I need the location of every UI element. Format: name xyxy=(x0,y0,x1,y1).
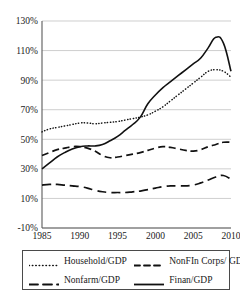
x-tick-label: 1985 xyxy=(33,231,52,241)
legend-entry[interactable]: NonFIn Corps/ GDP xyxy=(134,251,229,270)
y-tick-label: 30% xyxy=(21,164,39,174)
legend-swatch-dashed-icon xyxy=(134,256,164,265)
legend-entry[interactable]: Nonfarm/GDP xyxy=(23,270,134,289)
y-tick-label: 90% xyxy=(21,76,39,86)
legend-label: NonFIn Corps/ GDP xyxy=(169,256,240,266)
series-line-nonfarm-gdp xyxy=(42,175,231,192)
x-tick-label: 1990 xyxy=(70,231,89,241)
series-line-household-gdp xyxy=(42,70,231,132)
x-tick-label: 2005 xyxy=(184,231,203,241)
x-tick-label: 1995 xyxy=(108,231,127,241)
legend-swatch-long-dashed-icon xyxy=(29,275,59,284)
y-tick-label: 50% xyxy=(21,135,39,145)
legend-label: Nonfarm/GDP xyxy=(64,275,120,285)
legend-swatch-solid-icon xyxy=(134,275,164,284)
y-tick-label: 130% xyxy=(16,16,38,26)
y-tick-label: 70% xyxy=(21,105,39,115)
legend-label: Household/GDP xyxy=(64,256,127,266)
legend-entry[interactable]: Finan/GDP xyxy=(134,270,229,289)
x-axis-tick-labels: 198519901995200020052010 xyxy=(33,231,241,241)
legend-swatch-dotted-icon xyxy=(29,256,59,265)
x-tick-label: 2010 xyxy=(222,231,241,241)
legend-label: Finan/GDP xyxy=(169,275,212,285)
chart-container: -10%10%30%50%70%90%110%130% 198519901995… xyxy=(0,0,240,302)
x-tick-label: 2000 xyxy=(146,231,165,241)
y-axis-tick-labels: -10%10%30%50%70%90%110%130% xyxy=(16,16,38,233)
y-tick-label: 110% xyxy=(16,46,38,56)
chart-legend: Household/GDPNonFIn Corps/ GDPNonfarm/GD… xyxy=(22,250,230,290)
legend-entry[interactable]: Household/GDP xyxy=(23,251,134,270)
y-tick-label: 10% xyxy=(21,194,39,204)
